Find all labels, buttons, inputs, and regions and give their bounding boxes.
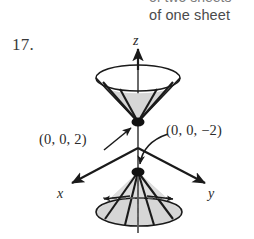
figure-page: of two sheets of one sheet 17. [0,0,254,239]
axis-label-y: y [208,186,214,202]
leader-line-vertex-bottom [140,134,168,164]
annotation-vertex-bottom: (0, 0, −2) [166,122,222,139]
y-axis-arrow [138,148,205,183]
double-cone-figure [0,0,254,239]
lower-cone-nappe [96,172,182,226]
x-axis-arrow [72,148,138,183]
vertex-dot-bottom [132,167,145,176]
vertex-dot-top [132,117,145,126]
axis-label-z: z [133,33,138,49]
leader-line-vertex-top [104,128,131,150]
annotation-vertex-top: (0, 0, 2) [39,131,87,148]
double-cone-svg [0,0,254,239]
axis-label-x: x [57,186,63,202]
coordinate-axes [72,49,205,233]
